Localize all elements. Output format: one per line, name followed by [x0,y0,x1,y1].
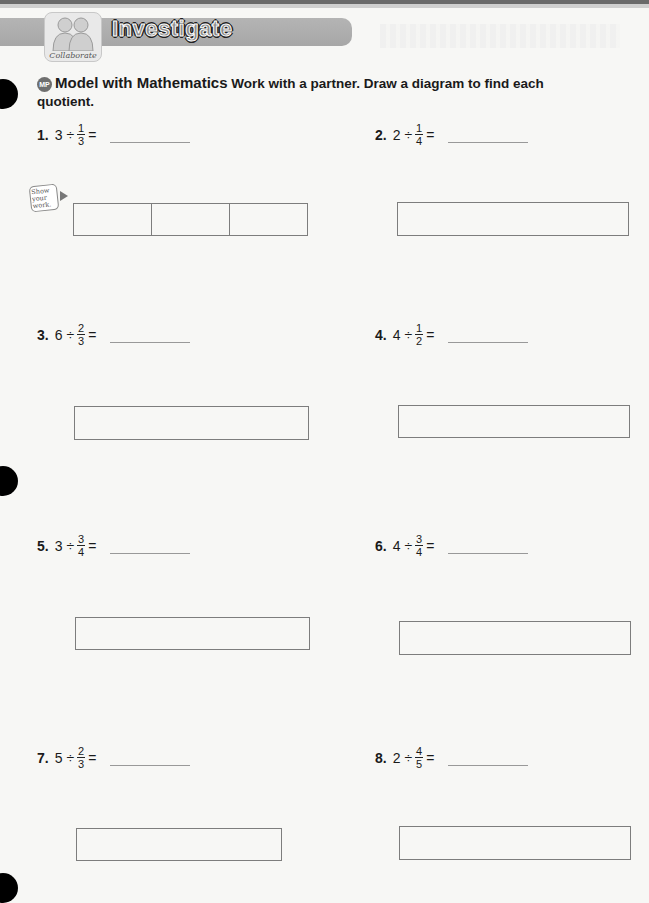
diagram-box-1[interactable] [73,203,308,236]
dividend: 5 [55,750,63,766]
bleed-through-texture [380,24,620,48]
numerator: 1 [415,322,423,335]
numerator: 2 [77,322,85,335]
dividend: 6 [55,327,63,343]
denominator: 4 [416,135,422,147]
diagram-box-5[interactable] [75,617,310,650]
problem-number: 3. [37,327,49,343]
dividend: 4 [393,538,401,554]
problem-number: 4. [375,327,387,343]
diagram-box-4[interactable] [398,405,630,438]
instructions-heading: Model with Mathematics [55,74,228,91]
numerator: 4 [415,745,423,758]
box-segment[interactable] [230,204,307,235]
dividend: 3 [55,538,63,554]
dividend: 2 [393,750,401,766]
diagram-box-8[interactable] [399,826,631,860]
equals-sign: = [426,538,434,554]
numerator: 2 [77,745,85,758]
denominator: 4 [416,546,422,558]
problem-7: 7. 5 ÷ 23 = [37,745,190,770]
divisor-fraction: 45 [415,745,423,770]
divisor-fraction: 12 [415,322,423,347]
page-top-edge-shadow [0,4,649,8]
equals-sign: = [88,750,96,766]
diagram-box-2[interactable] [397,202,629,236]
binder-hole [0,79,18,109]
binder-hole [0,873,18,903]
box-segment[interactable] [74,204,152,235]
answer-blank[interactable] [448,749,528,766]
answer-blank[interactable] [448,537,528,554]
dividend: 2 [393,127,401,143]
equals-sign: = [426,327,434,343]
answer-blank[interactable] [110,326,190,343]
denominator: 3 [78,135,84,147]
divide-sign: ÷ [66,327,74,343]
answer-blank[interactable] [110,749,190,766]
dividend: 4 [393,327,401,343]
divide-sign: ÷ [66,127,74,143]
diagram-box-7[interactable] [76,828,282,861]
equals-sign: = [88,538,96,554]
answer-blank[interactable] [448,126,528,143]
divisor-fraction: 14 [415,122,423,147]
answer-blank[interactable] [110,126,190,143]
binder-hole [0,466,18,496]
numerator: 3 [77,533,85,546]
diagram-box-3[interactable] [74,406,309,440]
divisor-fraction: 23 [77,322,85,347]
mp-badge-icon: MP [37,77,52,92]
divide-sign: ÷ [404,538,412,554]
problem-number: 2. [375,127,387,143]
numerator: 1 [415,122,423,135]
problem-number: 6. [375,538,387,554]
collaborate-badge: Collaborate [44,12,102,62]
dividend: 3 [55,127,63,143]
divisor-fraction: 34 [415,533,423,558]
divide-sign: ÷ [66,750,74,766]
problem-number: 5. [37,538,49,554]
problem-6: 6. 4 ÷ 34 = [375,533,528,558]
denominator: 5 [416,758,422,770]
problem-1: 1. 3 ÷ 13 = [37,122,190,147]
denominator: 3 [78,335,84,347]
divide-sign: ÷ [404,127,412,143]
collaborate-label: Collaborate [45,51,101,60]
box-segment[interactable] [152,204,230,235]
divisor-fraction: 34 [77,533,85,558]
divide-sign: ÷ [404,327,412,343]
problem-2: 2. 2 ÷ 14 = [375,122,528,147]
equals-sign: = [426,127,434,143]
diagram-box-6[interactable] [399,621,631,655]
divide-sign: ÷ [66,538,74,554]
answer-blank[interactable] [110,537,190,554]
denominator: 4 [78,546,84,558]
denominator: 2 [416,335,422,347]
people-icon [49,15,97,51]
equals-sign: = [88,127,96,143]
numerator: 1 [77,122,85,135]
instructions: MPModel with Mathematics Work with a par… [37,74,597,111]
divisor-fraction: 23 [77,745,85,770]
problem-number: 7. [37,750,49,766]
divisor-fraction: 13 [77,122,85,147]
arrow-right-icon [60,191,68,201]
equals-sign: = [426,750,434,766]
divide-sign: ÷ [404,750,412,766]
problem-number: 1. [37,127,49,143]
equals-sign: = [88,327,96,343]
banner-title: Investigate [112,16,232,42]
denominator: 3 [78,758,84,770]
problem-3: 3. 6 ÷ 23 = [37,322,190,347]
show-work-line: work. [32,201,57,210]
problem-4: 4. 4 ÷ 12 = [375,322,528,347]
problem-number: 8. [375,750,387,766]
answer-blank[interactable] [448,326,528,343]
show-your-work-tag: Show your work. [29,184,60,213]
numerator: 3 [415,533,423,546]
problem-8: 8. 2 ÷ 45 = [375,745,528,770]
problem-5: 5. 3 ÷ 34 = [37,533,190,558]
